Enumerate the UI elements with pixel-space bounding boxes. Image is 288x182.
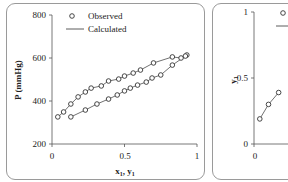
observed-data-point	[150, 76, 155, 81]
observed-data-point	[89, 86, 94, 91]
observed-data-point	[158, 73, 163, 78]
legend-observed-label: Observed	[88, 11, 123, 21]
observed-data-point	[61, 110, 66, 115]
charts-canvas: 800 600 400 200 0 0.5 1 P (mmHg) x1, y1 …	[0, 0, 288, 182]
observed-data-point	[151, 61, 156, 66]
legend-observed-marker-icon	[70, 14, 75, 19]
observed-data-point	[56, 115, 61, 120]
x-tick-1: 1	[195, 151, 200, 161]
observed-data-point	[179, 56, 184, 61]
observed-data-point	[170, 63, 175, 68]
observed-data-point	[128, 86, 133, 91]
right-x-tick-0: 0	[253, 151, 258, 161]
observed-data-point	[131, 71, 136, 76]
observed-data-point	[144, 80, 149, 85]
x-tick-0-5: 0.5	[119, 151, 131, 161]
y-tick-800: 800	[33, 10, 47, 20]
left-legend: Observed Calculated	[66, 11, 127, 34]
right-y-tick-0: 0	[244, 139, 249, 149]
y-tick-200: 200	[33, 139, 47, 149]
observed-data-point	[170, 55, 175, 60]
y-tick-600: 600	[33, 53, 47, 63]
observed-data-point	[138, 68, 143, 73]
y-tick-400: 400	[33, 96, 47, 106]
left-x-axis: 0 0.5 1	[50, 144, 200, 161]
observed-data-point	[276, 90, 281, 95]
left-plot-area	[56, 53, 190, 120]
right-legend	[276, 11, 288, 26]
observed-data-point	[115, 93, 120, 98]
observed-data-point	[266, 102, 271, 107]
x-axis-title: x1, y1	[115, 166, 135, 177]
observed-data-point	[106, 97, 111, 102]
right-legend-observed-marker-icon	[281, 11, 286, 16]
calculated-curve	[58, 55, 187, 117]
right-y-axis-title: y1	[228, 76, 239, 84]
right-y-tick-1: 1	[244, 7, 249, 17]
observed-data-point	[76, 95, 81, 100]
observed-data-point	[122, 74, 127, 79]
y-axis-title: P (mmHg)	[13, 60, 23, 100]
right-plot-area	[258, 90, 281, 121]
observed-data-point	[183, 54, 188, 59]
legend-calculated-label: Calculated	[88, 24, 127, 34]
observed-data-point	[106, 79, 111, 84]
observed-data-point	[83, 108, 88, 113]
right-y-axis: 1 0.5 0	[237, 7, 254, 149]
observed-data-point	[83, 90, 88, 95]
observed-data-point	[135, 83, 140, 88]
left-y-axis: 800 600 400 200	[33, 10, 53, 149]
observed-data-point	[69, 102, 74, 107]
observed-data-point	[116, 77, 121, 82]
observed-data-point	[99, 84, 104, 89]
observed-data-point	[69, 115, 74, 120]
observed-data-point	[95, 102, 100, 107]
observed-data-point	[122, 89, 127, 94]
observed-data-point	[258, 117, 263, 122]
x-tick-0: 0	[50, 151, 55, 161]
right-x-axis: 0	[253, 144, 288, 161]
